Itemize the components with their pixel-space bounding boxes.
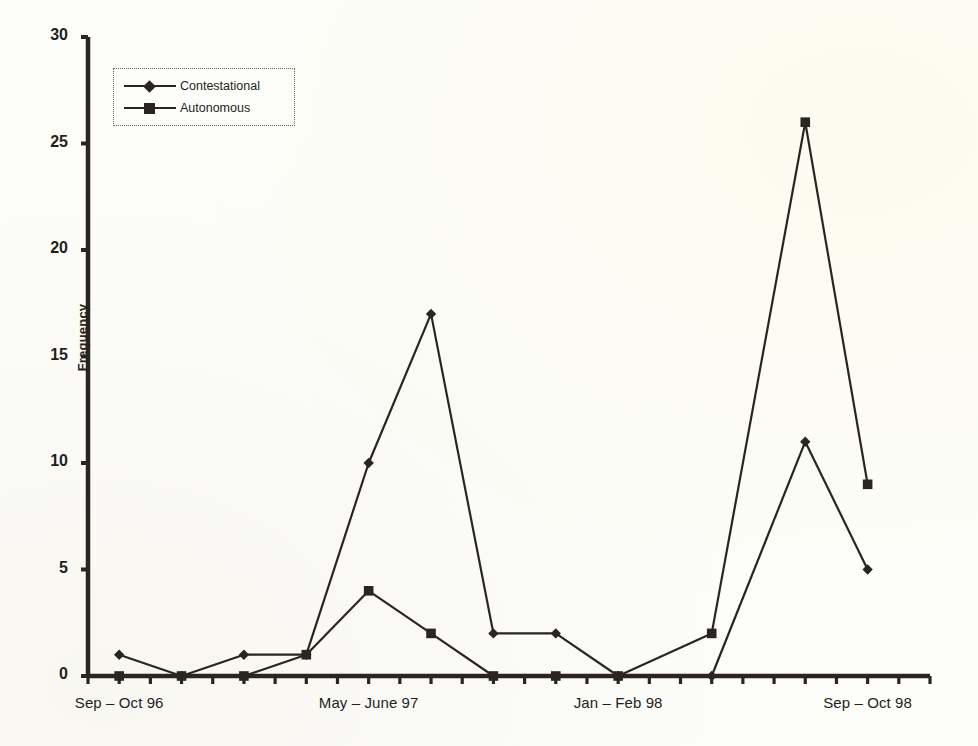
data-point-marker-diamond [426, 309, 436, 319]
data-point-marker-diamond [862, 564, 872, 574]
y-tick-label-30: 30 [28, 26, 68, 44]
y-tick-label-10: 10 [28, 452, 68, 470]
series-line-autonomous [119, 122, 867, 676]
x-tick-label: Sep – Oct 96 [75, 694, 164, 711]
data-point-marker-square [177, 671, 187, 681]
y-tick-label-20: 20 [28, 239, 68, 257]
data-point-marker-square [551, 671, 561, 681]
data-point-marker-diamond [114, 650, 124, 660]
x-tick-label: Jan – Feb 98 [574, 694, 663, 711]
legend-label-autonomous: Autonomous [180, 101, 250, 115]
legend-entry-autonomous: Autonomous [124, 99, 250, 117]
data-point-marker-square [301, 650, 311, 660]
legend-entry-contestational: Contestational [124, 77, 260, 95]
legend-marker-square-icon [124, 101, 176, 115]
x-tick-label: Sep – Oct 98 [823, 694, 912, 711]
y-tick-label-5: 5 [28, 559, 68, 577]
data-point-marker-diamond [800, 437, 810, 447]
y-tick-label-0: 0 [28, 665, 68, 683]
chart-legend: Contestational Autonomous [113, 68, 295, 126]
data-point-marker-square [114, 671, 124, 681]
y-tick-label-15: 15 [28, 346, 68, 364]
series-line-contestational [119, 314, 867, 676]
x-tick-label: May – June 97 [319, 694, 419, 711]
y-tick-label-25: 25 [28, 133, 68, 151]
data-point-marker-diamond [363, 458, 373, 468]
chart-figure: Frequency 302520151050 Sep – Oct 96May –… [0, 0, 978, 746]
data-point-marker-square [426, 629, 436, 639]
data-point-marker-square [364, 586, 374, 596]
data-point-marker-diamond [239, 650, 249, 660]
data-point-marker-square [800, 117, 810, 127]
data-point-marker-square [863, 480, 873, 490]
data-point-marker-diamond [488, 628, 498, 638]
data-point-marker-square [239, 671, 249, 681]
data-point-marker-square [613, 671, 623, 681]
data-point-marker-square [489, 671, 499, 681]
legend-marker-diamond-icon [124, 79, 176, 93]
data-point-marker-square [707, 629, 717, 639]
legend-label-contestational: Contestational [180, 79, 260, 93]
y-axis-title: Frequency [75, 278, 90, 398]
data-point-marker-diamond [707, 671, 717, 681]
